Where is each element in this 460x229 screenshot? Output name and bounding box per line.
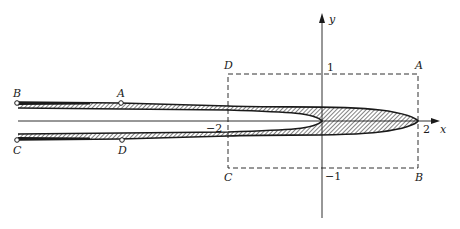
point-D-strip (120, 138, 125, 143)
strip-label-A: A (117, 88, 125, 99)
tick-x-neg2: −2 (206, 123, 222, 134)
point-C-left (15, 138, 20, 143)
figure: y x 1 −1 2 −2 A B C D B A C D (0, 0, 460, 229)
tick-y-1: 1 (327, 62, 334, 73)
point-A-strip (119, 101, 124, 106)
x-axis-arrow-icon (431, 118, 440, 124)
tick-y-neg1: −1 (325, 171, 341, 182)
y-axis-label: y (329, 14, 335, 25)
corner-B: B (415, 172, 423, 183)
x-axis-label: x (440, 124, 446, 135)
strip-label-B: B (13, 88, 21, 99)
diagram-canvas (0, 0, 460, 229)
corner-D: D (224, 60, 233, 71)
strip-label-C: C (13, 145, 21, 156)
tick-x-2: 2 (423, 124, 430, 135)
corner-A: A (415, 60, 423, 71)
strip-label-D: D (118, 145, 127, 156)
point-B-left (15, 101, 20, 106)
corner-C: C (224, 172, 232, 183)
y-axis-arrow-icon (319, 13, 325, 23)
